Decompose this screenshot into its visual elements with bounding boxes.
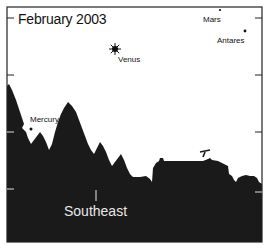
venus-label: Venus [118,55,140,64]
venus-icon [109,43,121,55]
antares-label: Antares [217,36,245,45]
mars-dot-icon [219,9,221,11]
mercury-label: Mercury [30,115,59,124]
mars-label: Mars [203,15,221,24]
chart-title: February 2003 [18,11,106,27]
mercury-dot-icon [30,128,33,131]
direction-label: Southeast [64,203,127,219]
antares-dot-icon [244,30,247,33]
